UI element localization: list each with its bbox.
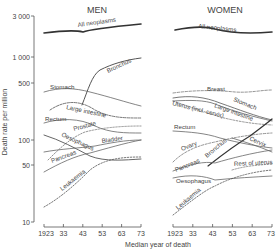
xtick-women-73: 73 bbox=[267, 230, 275, 237]
label-women-leukaemia: Leukaemia bbox=[174, 186, 202, 211]
label-men-oesophagus: Oesophagus bbox=[61, 131, 96, 152]
men-line-labels: All neoplasms Bronchus Stomach Large int… bbox=[45, 16, 132, 192]
label-women-breast: Breast bbox=[207, 85, 225, 92]
line-men-stomach bbox=[44, 89, 141, 106]
panel-title-women: WOMEN bbox=[207, 5, 243, 15]
x-axis-label: Median year of death bbox=[125, 241, 191, 249]
xtick-men-53: 53 bbox=[98, 230, 106, 237]
y-axis bbox=[31, 16, 34, 222]
label-women-bronchus: Bronchus bbox=[203, 137, 228, 159]
label-women-oesophagus: Oesophagus bbox=[176, 177, 211, 184]
x-axis-men bbox=[44, 224, 141, 227]
xtick-women-1923: 1923 bbox=[167, 230, 183, 237]
label-men-rectum: Rectum bbox=[45, 115, 66, 122]
xtick-men-33: 33 bbox=[60, 230, 68, 237]
y-axis-label: Death rate per million bbox=[1, 89, 9, 156]
ytick-1000: 1 000 bbox=[12, 54, 30, 61]
xtick-men-73: 73 bbox=[137, 230, 145, 237]
label-women-all: All neoplasms bbox=[198, 22, 237, 33]
ytick-50: 50 bbox=[22, 162, 30, 169]
label-women-rest-of-uterus: Rest of uterus bbox=[234, 158, 273, 167]
ytick-500: 500 bbox=[18, 80, 30, 87]
chart-canvas: 3 000 1 000 500 100 50 10 Death rate per… bbox=[0, 0, 278, 252]
panel-title-men: MEN bbox=[87, 5, 107, 15]
label-men-leukaemia: Leukaemia bbox=[58, 167, 87, 191]
label-women-rectum: Rectum bbox=[174, 123, 195, 130]
xtick-women-63: 63 bbox=[248, 230, 256, 237]
xtick-women-33: 33 bbox=[189, 230, 197, 237]
label-men-stomach: Stomach bbox=[50, 83, 75, 90]
label-women-pancreas: Pancreas bbox=[174, 157, 201, 173]
xtick-men-1923: 1923 bbox=[38, 230, 54, 237]
xtick-women-43: 43 bbox=[209, 230, 217, 237]
ytick-100: 100 bbox=[18, 137, 30, 144]
xtick-men-43: 43 bbox=[79, 230, 87, 237]
ytick-10: 10 bbox=[22, 219, 30, 226]
xtick-men-63: 63 bbox=[118, 230, 126, 237]
label-men-bronchus: Bronchus bbox=[105, 57, 132, 74]
ytick-3000: 3 000 bbox=[12, 13, 30, 20]
women-line-labels: All neoplasms Breast Stomach Large intes… bbox=[172, 22, 273, 211]
women-lines bbox=[173, 27, 272, 215]
label-men-bladder: Bladder bbox=[101, 134, 123, 144]
label-men-all: All neoplasms bbox=[77, 16, 116, 28]
x-axis-women bbox=[173, 224, 272, 227]
xtick-women-53: 53 bbox=[229, 230, 237, 237]
